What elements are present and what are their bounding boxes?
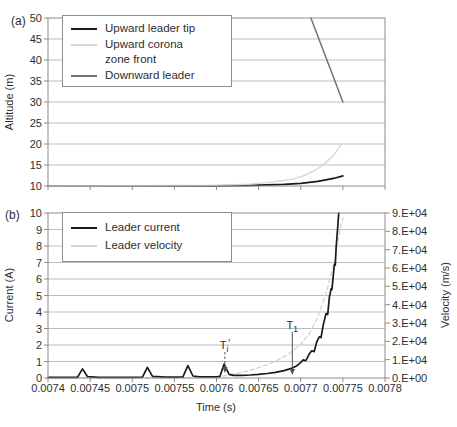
x-tick-label: 0.0075	[115, 382, 149, 394]
y-tick-label-a: 20	[30, 138, 42, 150]
y-tick-label-current: 5	[36, 290, 42, 302]
arrowhead-down-icon	[290, 369, 295, 375]
x-tick-label: 0.00745	[70, 382, 110, 394]
annotation-ti: Ti′	[220, 338, 231, 373]
legend-label: Downward leader	[105, 68, 195, 82]
line-sample-icon	[71, 28, 97, 30]
y-tick-label-current: 6	[36, 273, 42, 285]
y-tick-label-velocity: 1.E+04	[392, 354, 427, 366]
x-tick-label: 0.00755	[154, 382, 194, 394]
annotation-label: Ti′	[220, 338, 231, 354]
y-tick-label-a: 40	[30, 54, 42, 66]
panel-b-legend: Leader current Leader velocity	[62, 212, 232, 262]
y-tick-label-velocity: 4.E+04	[392, 299, 427, 311]
legend-label: Upward leader tip	[105, 21, 195, 35]
y-tick-label-current: 7	[36, 257, 42, 269]
y-tick-label-current: 10	[30, 207, 42, 219]
x-tick-label: 0.00765	[239, 382, 279, 394]
x-tick-label: 0.0078	[368, 382, 402, 394]
legend-item-upward-corona-zone-front: Upward corona zone front	[69, 37, 225, 66]
y-tick-label-current: 8	[36, 240, 42, 252]
x-tick-label: 0.0077	[284, 382, 318, 394]
panel-a-legend: Upward leader tip Upward corona zone fro…	[62, 15, 232, 87]
legend-item-leader-velocity: Leader velocity	[69, 238, 225, 252]
y-tick-label-velocity: 9.E+04	[392, 207, 427, 219]
panel-a-label: (a)	[11, 14, 26, 28]
legend-label: Leader current	[105, 220, 180, 234]
y-tick-label-a: 35	[30, 75, 42, 87]
y-tick-label-current: 4	[36, 306, 42, 318]
legend-item-upward-leader-tip: Upward leader tip	[69, 21, 225, 35]
x-tick-label: 0.0076	[200, 382, 234, 394]
legend-item-downward-leader: Downward leader	[69, 68, 225, 82]
panel-b-label: (b)	[5, 208, 20, 222]
line-sample-icon	[71, 245, 97, 247]
y-tick-label-velocity: 5.E+04	[392, 280, 427, 292]
x-axis-title: Time (s)	[196, 401, 236, 413]
legend-item-leader-current: Leader current	[69, 220, 225, 234]
line-sample-icon	[71, 44, 97, 46]
y-tick-label-current: 2	[36, 339, 42, 351]
y-tick-label-a: 30	[30, 96, 42, 108]
legend-label: Leader velocity	[105, 238, 182, 252]
y-tick-label-a: 50	[30, 12, 42, 24]
panel-b-y-left-axis-title: Current (A)	[3, 268, 15, 322]
legend-label: Upward corona zone front	[105, 37, 201, 66]
annotation-label: T1	[287, 319, 299, 334]
y-tick-label-velocity: 6.E+04	[392, 262, 427, 274]
y-tick-label-velocity: 7.E+04	[392, 244, 427, 256]
line-sample-icon	[71, 227, 97, 229]
y-tick-label-a: 15	[30, 159, 42, 171]
x-tick-label: 0.0074	[31, 382, 65, 394]
y-tick-label-a: 45	[30, 33, 42, 45]
y-tick-label-current: 9	[36, 224, 42, 236]
y-tick-label-velocity: 3.E+04	[392, 317, 427, 329]
y-tick-label-velocity: 8.E+04	[392, 225, 427, 237]
panel-b-y-right-axis-title: Velocity (m/s)	[439, 262, 451, 328]
y-tick-label-current: 3	[36, 323, 42, 335]
panel-a-y-axis-title: Altitude (m)	[3, 74, 15, 130]
x-tick-label: 0.00775	[323, 382, 363, 394]
y-tick-label-current: 1	[36, 356, 42, 368]
y-tick-label-velocity: 2.E+04	[392, 335, 427, 347]
y-tick-label-a: 10	[30, 180, 42, 192]
figure-dual-panel-chart: 1015202530354045500123456789100.E+001.E+…	[0, 0, 457, 427]
y-tick-label-a: 25	[30, 117, 42, 129]
line-sample-icon	[71, 75, 97, 77]
